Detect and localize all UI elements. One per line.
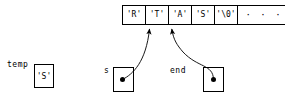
end-pointer-dot: [211, 77, 216, 82]
end-pointer-label: end: [170, 66, 186, 75]
array-cell-4: '\0': [215, 6, 238, 24]
s-pointer-label: s: [104, 66, 109, 75]
temp-variable-label: temp: [7, 60, 28, 69]
s-pointer-dot: [120, 77, 125, 82]
array-cell-2: 'A': [169, 6, 192, 24]
array-cell-0: 'R': [123, 6, 146, 24]
array-cell-ellipsis: · · ·: [238, 6, 285, 24]
array-cell-3: 'S': [192, 6, 215, 24]
temp-variable-box: 'S': [34, 64, 54, 88]
diagram-canvas: 'R' 'T' 'A' 'S' '\0' · · · temp 'S' s en…: [0, 0, 285, 99]
array-cell-1: 'T': [146, 6, 169, 24]
character-array: 'R' 'T' 'A' 'S' '\0' · · ·: [122, 5, 285, 25]
